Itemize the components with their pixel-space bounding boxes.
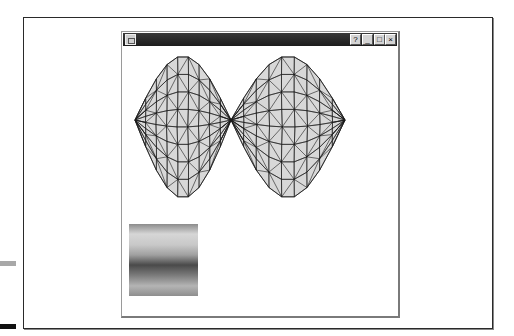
side-marker-gray: [0, 261, 16, 266]
maximize-button[interactable]: □: [374, 34, 385, 45]
gradient-swatch: [129, 224, 198, 296]
minimize-button[interactable]: _: [362, 34, 373, 45]
app-icon[interactable]: [125, 34, 136, 45]
render-canvas[interactable]: [122, 46, 398, 316]
help-button[interactable]: ?: [350, 34, 361, 45]
side-marker-black: [0, 324, 16, 329]
close-button[interactable]: ×: [385, 34, 396, 45]
title-bar[interactable]: ? _ □ ×: [123, 33, 397, 46]
app-window: ? _ □ ×: [121, 31, 400, 318]
